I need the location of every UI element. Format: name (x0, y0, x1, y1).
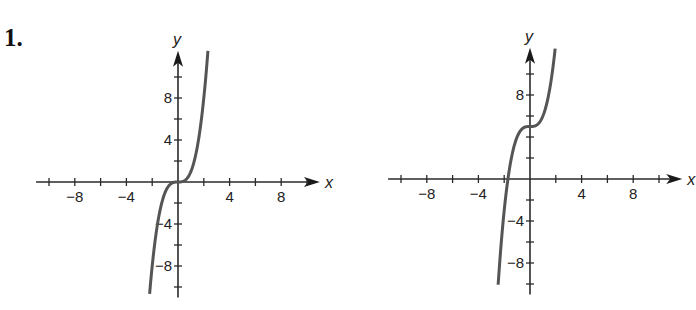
x-tick-label: 4 (577, 185, 585, 202)
x-tick-label: −8 (66, 188, 83, 205)
x-tick-label: 8 (277, 188, 285, 205)
x-axis-label: x (686, 171, 696, 188)
y-tick-label: −8 (507, 254, 524, 271)
y-tick-label: 8 (164, 89, 172, 106)
x-tick-label: −4 (470, 185, 487, 202)
x-tick-label: 4 (225, 188, 233, 205)
x-tick-label: −8 (418, 185, 435, 202)
x-tick-label: 8 (629, 185, 637, 202)
y-tick-label: −8 (155, 257, 172, 274)
graph-left-cubic: xy−8−44884−4−8 (36, 31, 334, 298)
x-tick-label: −4 (118, 188, 135, 205)
function-curve (498, 49, 555, 285)
graph-right-cubic-shifted: xy−8−4488−4−8 (388, 28, 696, 295)
y-axis-label: y (172, 31, 182, 48)
x-axis-label: x (324, 174, 334, 191)
y-tick-label: 4 (164, 131, 172, 148)
y-axis-label: y (524, 28, 534, 45)
y-tick-label: 8 (516, 86, 524, 103)
y-tick-label: −4 (507, 212, 524, 229)
plots-canvas: xy−8−44884−4−8 xy−8−4488−4−8 (0, 0, 696, 310)
